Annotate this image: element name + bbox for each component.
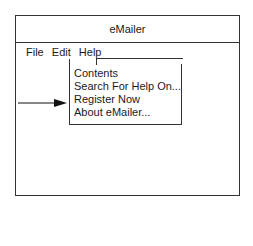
menu-help[interactable]: Help — [79, 46, 102, 58]
menu-bar: File Edit Help — [26, 46, 106, 58]
help-dropdown-menu: Contents Search For Help On... Register … — [69, 64, 182, 125]
menu-item-about[interactable]: About eMailer... — [74, 106, 181, 119]
menu-item-register-now[interactable]: Register Now — [74, 93, 181, 106]
title-bar: eMailer — [16, 16, 239, 43]
window-title: eMailer — [109, 23, 145, 35]
menu-file[interactable]: File — [26, 46, 44, 58]
right-arrow-icon — [18, 98, 68, 108]
menu-item-contents[interactable]: Contents — [74, 67, 181, 80]
menu-item-search-help[interactable]: Search For Help On... — [74, 80, 181, 93]
menu-edit[interactable]: Edit — [52, 46, 71, 58]
